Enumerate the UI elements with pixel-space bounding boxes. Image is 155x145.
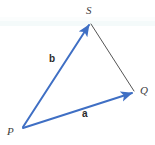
vector-label-a: a [82,109,88,119]
vector-b-P-to-S [23,25,89,127]
vertex-label-q: Q [140,85,148,96]
vector-a-P-to-Q [23,93,132,128]
vector-label-b: b [49,54,55,64]
vertex-label-s: S [86,5,92,16]
vertex-label-p: P [7,126,14,137]
vector-canvas [0,0,155,145]
vector-diagram: S Q P b a [0,0,155,145]
segment-S-Q [91,24,134,91]
